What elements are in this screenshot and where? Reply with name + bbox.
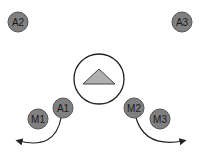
svg-text:M2: M2 [127,103,141,114]
svg-text:M3: M3 [153,114,167,125]
svg-text:M1: M1 [31,114,45,125]
svg-text:A1: A1 [57,103,70,114]
node-A2: A2 [8,12,28,32]
center-symbol [74,54,124,104]
node-M1: M1 [28,109,48,129]
node-A3: A3 [172,12,192,32]
node-A1: A1 [53,98,73,118]
svg-text:A3: A3 [176,17,189,28]
svg-text:A2: A2 [12,17,25,28]
node-M2: M2 [124,98,144,118]
diagram-canvas: A2 A3 A1 M1 M2 M3 [0,0,200,155]
node-M3: M3 [150,109,170,129]
